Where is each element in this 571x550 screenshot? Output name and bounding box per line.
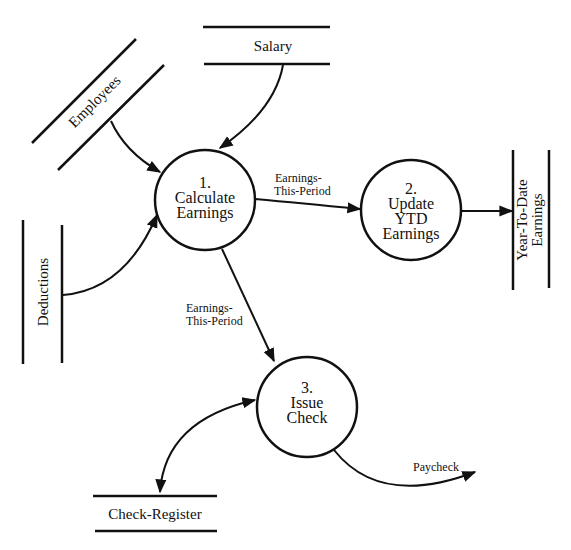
data-store-employees: Employees	[32, 39, 164, 170]
process-calculate-earnings: 1. Calculate Earnings	[155, 150, 255, 250]
data-store-deductions: Deductions	[23, 220, 62, 364]
flow-deductions-to-p1	[63, 215, 157, 295]
flow-label-p1-p3-line1: Earnings-	[186, 301, 233, 315]
process-update-ytd-earnings: 2. Update YTD Earnings	[361, 160, 461, 260]
data-store-check-register: Check-Register	[93, 496, 217, 531]
salary-label: Salary	[254, 38, 293, 54]
flow-employees-to-p1	[111, 121, 160, 172]
flow-label-p1-p2-line2: This-Period	[274, 184, 331, 198]
process-1-line2: Earnings	[177, 204, 234, 222]
process-issue-check: 3. Issue Check	[257, 357, 357, 457]
data-store-salary: Salary	[203, 27, 330, 64]
deductions-label: Deductions	[35, 258, 51, 326]
data-store-ytd-earnings: Year-To-Date Earnings	[513, 150, 549, 290]
flow-label-p1-p3-line2: This-Period	[186, 314, 243, 328]
process-3-line2: Check	[287, 409, 328, 426]
data-flow-diagram: Employees Salary Deductions Year-To-Date…	[0, 0, 571, 550]
ytd-label-line1: Year-To-Date	[514, 179, 530, 261]
flow-salary-to-p1	[220, 65, 283, 148]
ytd-label-line2: Earnings	[529, 193, 545, 246]
flow-label-p1-p2-line1: Earnings-	[275, 171, 322, 185]
check-register-label: Check-Register	[108, 506, 201, 522]
flow-p3-check-register	[160, 400, 255, 492]
flow-p1-to-p2	[255, 199, 360, 209]
process-2-line3: Earnings	[383, 225, 440, 243]
flow-label-paycheck: Paycheck	[413, 460, 459, 474]
